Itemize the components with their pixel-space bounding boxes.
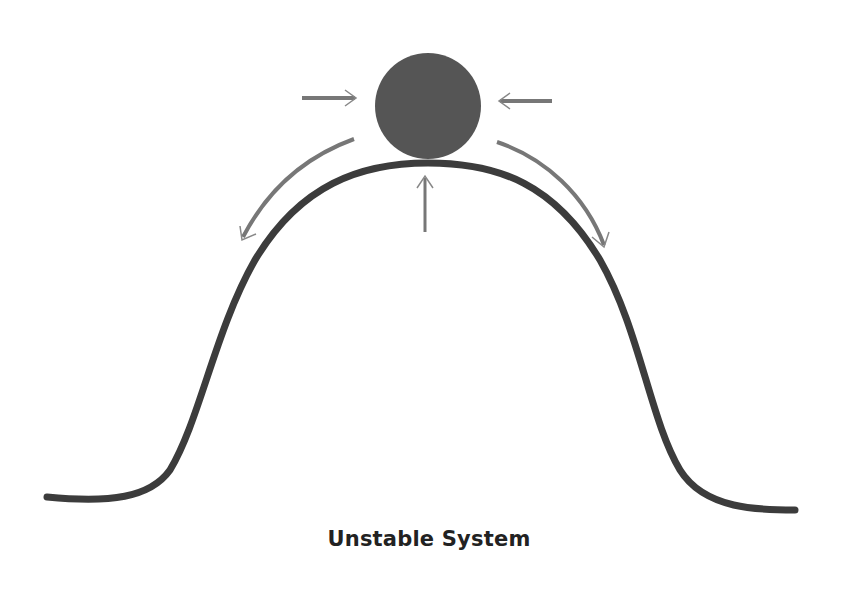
ball xyxy=(375,53,481,159)
diagram-title: Unstable System xyxy=(0,527,841,551)
unstable-system-diagram xyxy=(0,0,841,596)
left-roll-off-arrow xyxy=(240,139,354,240)
left-push-arrow xyxy=(302,90,356,106)
right-roll-off-arrow xyxy=(497,142,609,247)
upward-support-arrow xyxy=(417,176,433,232)
hill-curve xyxy=(47,163,795,510)
right-push-arrow xyxy=(499,93,552,109)
